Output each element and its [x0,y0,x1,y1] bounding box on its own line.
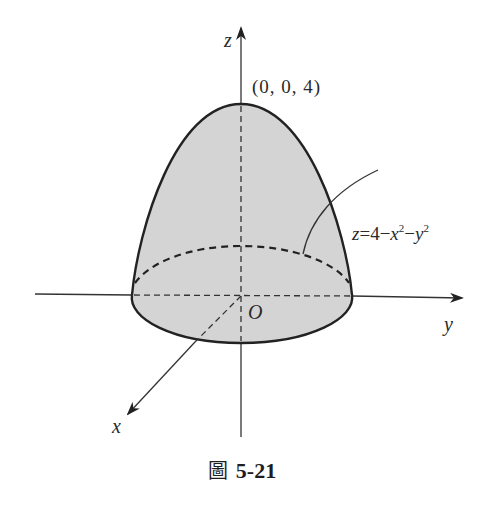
eq-const: 4 [370,223,380,244]
paraboloid-figure: z (0, 0, 4) z=4−x2−y2 O y x 圖5-21 [0,0,484,509]
caption-prefix: 圖 [208,459,228,483]
y-axis-label: y [444,314,453,334]
eq-minus2: − [404,223,415,244]
y-axis-right [352,296,462,298]
paraboloid-diagram [0,0,484,509]
eq-minus1: − [380,223,391,244]
x-axis-visible [128,342,195,414]
y-axis-left [35,294,132,295]
paraboloid-surface [132,104,353,343]
origin-label: O [248,302,262,322]
z-axis-label: z [224,30,232,50]
eq-equals: = [359,223,370,244]
x-axis-label: x [112,416,121,436]
caption-number: 5-21 [236,458,276,483]
equation-label: z=4−x2−y2 [352,223,429,243]
eq-exp-y: 2 [423,222,429,234]
apex-coordinate-label: (0, 0, 4) [252,77,321,96]
eq-var-x: x [390,223,398,244]
figure-caption: 圖5-21 [0,455,484,484]
